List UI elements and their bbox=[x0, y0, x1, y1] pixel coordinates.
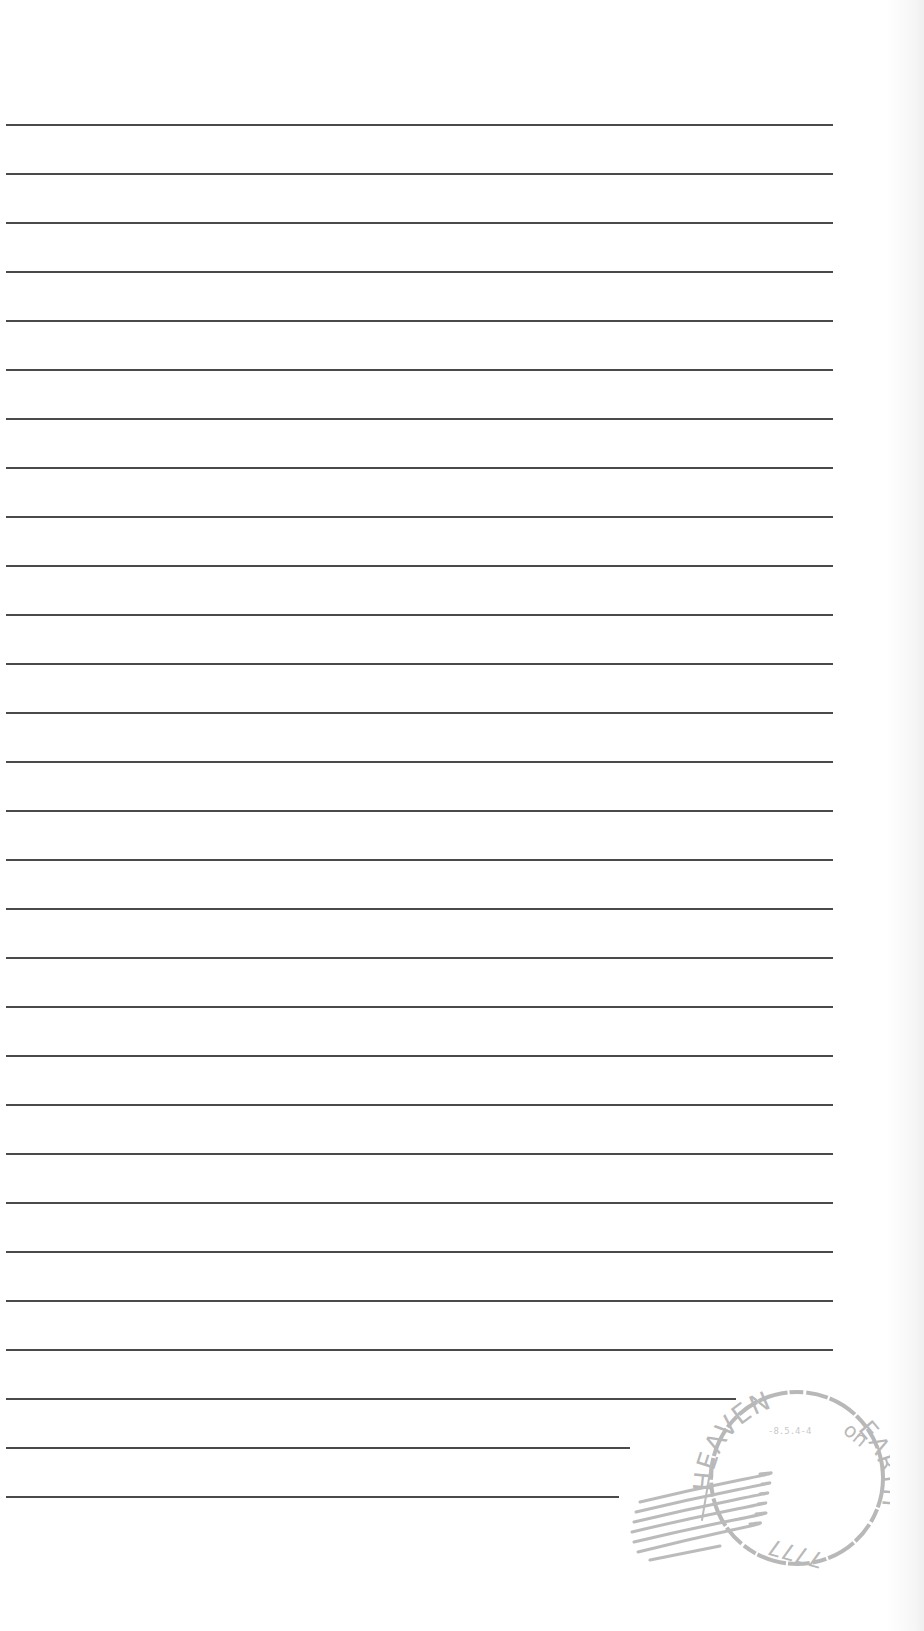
ruled-line bbox=[6, 516, 833, 518]
ruled-line bbox=[6, 1006, 833, 1008]
svg-text:EARTH: EARTH bbox=[853, 1415, 890, 1508]
postmark-stamp-icon: HEAVEN on EARTH 7777 -8.5.4-4 bbox=[620, 1380, 890, 1600]
ruled-line bbox=[6, 810, 833, 812]
ruled-line bbox=[6, 565, 833, 567]
ruled-line bbox=[6, 1104, 833, 1106]
ruled-line bbox=[6, 1055, 833, 1057]
ruled-line bbox=[6, 1447, 630, 1449]
ruled-line bbox=[6, 124, 833, 126]
ruled-line bbox=[6, 908, 833, 910]
ruled-line bbox=[6, 1349, 833, 1351]
ruled-line bbox=[6, 614, 833, 616]
ruled-line bbox=[6, 418, 833, 420]
ruled-line bbox=[6, 663, 833, 665]
stamp-bottom-text: 7777 bbox=[765, 1534, 826, 1573]
ruled-line bbox=[6, 1153, 833, 1155]
ruled-line bbox=[6, 761, 833, 763]
stamp-right-text: EARTH bbox=[853, 1415, 890, 1508]
ruled-line bbox=[6, 1202, 833, 1204]
stamp-code: -8.5.4-4 bbox=[768, 1426, 811, 1436]
ruled-line bbox=[6, 1496, 619, 1498]
ruled-line bbox=[6, 173, 833, 175]
ruled-line bbox=[6, 1251, 833, 1253]
ruled-line bbox=[6, 957, 833, 959]
ruled-line bbox=[6, 369, 833, 371]
ruled-line bbox=[6, 712, 833, 714]
ruled-line bbox=[6, 222, 833, 224]
letter-paper: HEAVEN on EARTH 7777 -8.5.4-4 bbox=[0, 0, 924, 1631]
ruled-line bbox=[6, 271, 833, 273]
ruled-line bbox=[6, 320, 833, 322]
ruled-line bbox=[6, 859, 833, 861]
ruled-line bbox=[6, 467, 833, 469]
ruled-line bbox=[6, 1300, 833, 1302]
